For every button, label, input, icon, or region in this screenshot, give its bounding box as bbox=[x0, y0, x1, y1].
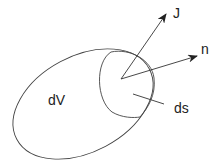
label-ds: ds bbox=[174, 101, 189, 115]
j-vector-arrow bbox=[121, 14, 166, 79]
ds-leader-line bbox=[133, 94, 164, 104]
label-n: n bbox=[201, 42, 209, 56]
diagram-canvas: J n dV ds bbox=[0, 0, 221, 165]
label-dv: dV bbox=[48, 93, 65, 107]
diagram-drawing bbox=[0, 0, 221, 165]
volume-ellipse bbox=[0, 26, 172, 165]
n-vector-arrow bbox=[121, 56, 197, 79]
label-j: J bbox=[173, 6, 180, 20]
